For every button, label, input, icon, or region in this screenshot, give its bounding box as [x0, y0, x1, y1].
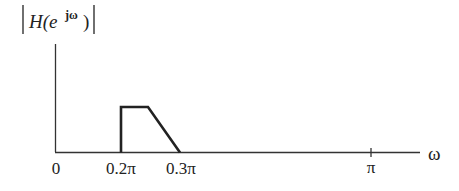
y-label-suffix: ): [83, 11, 89, 33]
y-axis-label: H(e jω ): [23, 5, 94, 34]
y-label-prefix: H(e: [28, 11, 57, 33]
y-label-superscript: jω: [64, 8, 78, 22]
x-tick-label-0-2pi: 0.2π: [106, 159, 136, 178]
x-tick-label-0: 0: [52, 159, 61, 178]
magnitude-response-diagram: H(e jω ) 0 0.2π 0.3π π ω: [0, 0, 459, 191]
x-axis-label: ω: [428, 143, 441, 164]
x-tick-label-pi: π: [367, 158, 376, 177]
magnitude-curve: [121, 107, 180, 153]
x-tick-label-0-3pi: 0.3π: [166, 159, 196, 178]
